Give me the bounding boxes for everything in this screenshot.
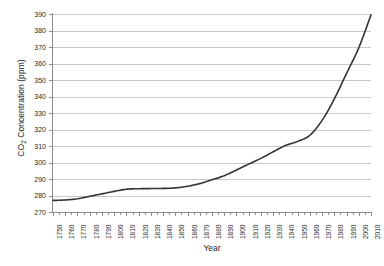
- x-tick-label-1880: 1880: [215, 225, 222, 239]
- co2-concentration-chart: CO2 Concentration (ppm) 2702802903003103…: [0, 0, 384, 266]
- x-tick-label-2000: 2000: [362, 225, 369, 239]
- x-tick-label-1800: 1800: [117, 225, 124, 239]
- x-tick-label-1990: 1990: [350, 225, 357, 239]
- x-tick-label-1840: 1840: [166, 225, 173, 239]
- x-tick-label-2010: 2010: [374, 225, 381, 239]
- x-tick-label-1930: 1930: [276, 225, 283, 239]
- x-tick-mark-2010: [371, 212, 372, 216]
- y-tick-label-270: 270: [18, 209, 46, 216]
- x-tick-label-1850: 1850: [178, 225, 185, 239]
- x-tick-label-1870: 1870: [203, 225, 210, 239]
- x-tick-label-1810: 1810: [129, 225, 136, 239]
- y-axis-title-suffix: Concentration (ppm): [16, 59, 26, 140]
- x-tick-label-1980: 1980: [337, 225, 344, 239]
- x-tick-label-1780: 1780: [93, 225, 100, 239]
- x-axis-title: Year: [53, 243, 371, 253]
- x-tick-label-1760: 1760: [68, 225, 75, 239]
- y-axis-title: CO2 Concentration (ppm): [14, 8, 28, 208]
- x-tick-label-1770: 1770: [80, 225, 87, 239]
- series-line-co2: [53, 14, 371, 212]
- x-tick-label-1960: 1960: [313, 225, 320, 239]
- x-tick-label-1890: 1890: [227, 225, 234, 239]
- x-tick-label-1940: 1940: [288, 225, 295, 239]
- x-tick-label-1750: 1750: [56, 225, 63, 239]
- x-tick-label-1900: 1900: [239, 225, 246, 239]
- x-tick-label-1950: 1950: [301, 225, 308, 239]
- x-tick-label-1790: 1790: [105, 225, 112, 239]
- x-tick-label-1910: 1910: [252, 225, 259, 239]
- y-axis-title-subscript: 2: [20, 140, 27, 144]
- x-tick-label-1860: 1860: [191, 225, 198, 239]
- y-axis-title-prefix: CO: [16, 144, 26, 157]
- x-axis-line: [52, 212, 371, 213]
- x-tick-label-1830: 1830: [154, 225, 161, 239]
- x-tick-label-1820: 1820: [142, 225, 149, 239]
- x-tick-label-1970: 1970: [325, 225, 332, 239]
- x-tick-label-1920: 1920: [264, 225, 271, 239]
